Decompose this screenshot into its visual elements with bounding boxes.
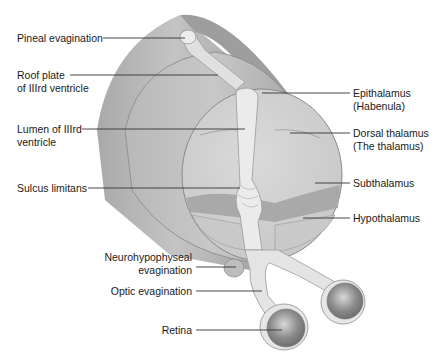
label-roof-plate-line2: of IIIrd ventricle — [17, 82, 89, 95]
label-neuro-line1: Neurohypophyseal — [104, 251, 192, 264]
label-neuro-line2: evagination — [104, 264, 192, 277]
label-roof-plate: Roof plate of IIIrd ventricle — [17, 69, 89, 95]
label-epithalamus-line1: Epithalamus — [353, 87, 411, 100]
label-lumen-third-ventricle: Lumen of IIIrd ventricle — [17, 123, 82, 149]
label-lumen-line2: ventricle — [17, 136, 82, 149]
label-lumen-line1: Lumen of IIIrd — [17, 123, 82, 136]
label-sulcus-limitans: Sulcus limitans — [17, 182, 87, 195]
label-dorsal-line1: Dorsal thalamus — [353, 127, 429, 140]
label-dorsal-thalamus: Dorsal thalamus (The thalamus) — [353, 127, 429, 153]
neurohypophyseal-bulge — [224, 259, 244, 277]
label-roof-plate-line1: Roof plate — [17, 69, 89, 82]
diencephalon-cut-face — [182, 89, 342, 261]
label-dorsal-line2: (The thalamus) — [353, 140, 429, 153]
label-epithalamus: Epithalamus (Habenula) — [353, 87, 411, 113]
optic-evaginations — [245, 250, 365, 350]
label-hypothalamus: Hypothalamus — [353, 212, 420, 225]
label-epithalamus-line2: (Habenula) — [353, 100, 411, 113]
label-optic-evagination: Optic evagination — [104, 285, 192, 298]
label-pineal-evagination: Pineal evagination — [17, 32, 103, 45]
label-retina: Retina — [104, 324, 192, 337]
label-subthalamus: Subthalamus — [353, 177, 414, 190]
label-neurohypophyseal-evagination: Neurohypophyseal evagination — [104, 251, 192, 277]
